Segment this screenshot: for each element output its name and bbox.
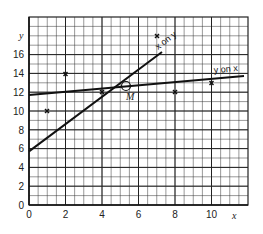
y-tick: 16: [13, 49, 25, 60]
x-tick: 10: [206, 209, 218, 220]
y-tick: 14: [13, 68, 25, 79]
x-tick: 6: [136, 209, 142, 220]
x-tick: 2: [63, 209, 69, 220]
y-axis-label: y: [18, 30, 24, 41]
y-on-x-label: y on x: [213, 63, 238, 75]
x-tick: 8: [172, 209, 178, 220]
x-tick: 0: [26, 209, 32, 220]
x-tick-labels: 0 2 4 6 8 10: [26, 209, 217, 220]
y-tick: 10: [13, 106, 25, 117]
y-tick: 6: [18, 143, 24, 154]
y-tick: 4: [18, 162, 24, 173]
y-tick: 0: [18, 200, 24, 211]
y-tick: 2: [18, 181, 24, 192]
scatter-chart: 0 2 4 6 8 10 12 14 16 y 0 2 4 6 8 10 x x…: [0, 0, 263, 234]
mean-point-label: M: [125, 91, 135, 102]
y-tick: 12: [13, 87, 25, 98]
y-tick: 8: [18, 125, 24, 136]
y-tick-labels: 0 2 4 6 8 10 12 14 16: [13, 49, 25, 211]
x-tick: 4: [99, 209, 105, 220]
x-axis-label: x: [231, 210, 237, 221]
